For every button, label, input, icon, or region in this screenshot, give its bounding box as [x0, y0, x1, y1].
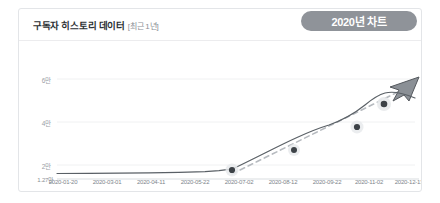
gridlines — [57, 79, 415, 165]
card-title-subtext: [최근 1년] — [128, 22, 159, 31]
series-line-subscribers — [57, 92, 415, 173]
badge-label: 2020년 차트 — [331, 13, 386, 29]
data-point-marker[interactable] — [377, 97, 391, 111]
subscriber-history-card: 구독자 히스토리 데이터[최근 1년] 2020년 차트 — [18, 8, 422, 192]
card-title-text: 구독자 히스토리 데이터 — [33, 20, 125, 31]
data-point-marker[interactable] — [226, 164, 239, 177]
trend-dashed-line — [232, 90, 402, 174]
data-point-marker[interactable] — [288, 144, 300, 156]
status-badge[interactable]: 2020년 차트 — [301, 11, 417, 31]
page-title: 구독자 히스토리 데이터[최근 1년] — [33, 18, 158, 32]
chart-plot-area: 6만 4만 2만 1.27만 2020-01-20 2020-03-01 202… — [19, 41, 422, 192]
card-header: 구독자 히스토리 데이터[최근 1년] 2020년 차트 — [19, 9, 421, 41]
line-chart-svg — [19, 41, 422, 192]
screenshot-root: 구독자 히스토리 데이터[최근 1년] 2020년 차트 — [0, 0, 440, 203]
data-point-marker[interactable] — [351, 121, 364, 134]
